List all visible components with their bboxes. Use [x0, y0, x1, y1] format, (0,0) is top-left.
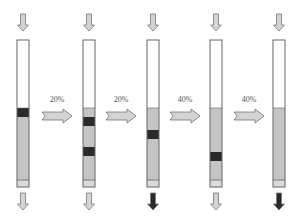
- transition-arrow-icon: [42, 109, 72, 123]
- column-empty-region: [210, 40, 222, 108]
- transition-percent-label: 20%: [42, 95, 72, 104]
- eluate-light-arrow-icon: [18, 193, 29, 210]
- transition-percent-label: 20%: [106, 95, 136, 104]
- inflow-arrow-icon: [148, 14, 159, 31]
- transition-arrow-icon: [106, 109, 136, 123]
- sample-band: [210, 152, 222, 161]
- inflow-arrow-icon: [211, 14, 222, 31]
- sample-band: [147, 130, 159, 139]
- eluate-light-arrow-icon: [84, 193, 95, 210]
- column-gel-bed: [273, 108, 285, 180]
- column-gel-bed: [210, 108, 222, 180]
- inflow-arrow-icon: [274, 14, 285, 31]
- eluate-dark-arrow-icon: [274, 193, 285, 210]
- column-frit: [83, 180, 95, 187]
- column-frit: [273, 180, 285, 187]
- column-frit: [210, 180, 222, 187]
- transition-arrow-icon: [170, 109, 200, 123]
- column-empty-region: [273, 40, 285, 108]
- column-gel-bed: [17, 108, 29, 180]
- diagram-canvas: [0, 0, 300, 216]
- column-frit: [17, 180, 29, 187]
- transition-percent-label: 40%: [234, 95, 264, 104]
- eluate-dark-arrow-icon: [148, 193, 159, 210]
- inflow-arrow-icon: [18, 14, 29, 31]
- column-frit: [147, 180, 159, 187]
- inflow-arrow-icon: [84, 14, 95, 31]
- sample-band: [83, 117, 95, 126]
- transition-arrow-icon: [234, 109, 264, 123]
- column-empty-region: [83, 40, 95, 108]
- column-gel-bed: [147, 108, 159, 180]
- eluate-light-arrow-icon: [211, 193, 222, 210]
- sample-band: [83, 147, 95, 156]
- column-empty-region: [17, 40, 29, 108]
- sample-band: [17, 108, 29, 117]
- transition-percent-label: 40%: [170, 95, 200, 104]
- column-empty-region: [147, 40, 159, 108]
